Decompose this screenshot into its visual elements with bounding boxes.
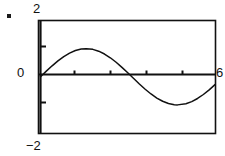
plot-frame-border [39, 21, 216, 134]
sine-curve-path [41, 49, 216, 105]
sine-wave-figure: 2 −2 0 6 [0, 0, 225, 156]
plot-area [0, 0, 225, 156]
